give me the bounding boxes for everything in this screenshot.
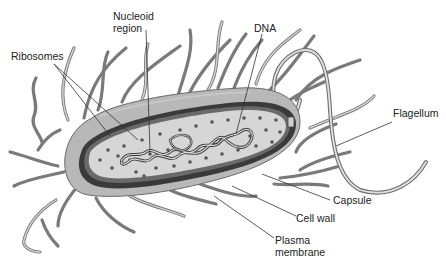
capsule-label: Capsule bbox=[333, 194, 372, 206]
ribosomes-label: Ribosomes bbox=[11, 50, 64, 62]
cell-wall-label: Cell wall bbox=[296, 212, 335, 224]
nucleoid-region-label: Nucleoid region bbox=[113, 10, 154, 34]
plasma-membrane-label: Plasma membrane bbox=[275, 234, 325, 258]
dna-label: DNA bbox=[254, 22, 276, 34]
bacterial-cell-diagram bbox=[0, 0, 446, 268]
flagellum-label: Flagellum bbox=[393, 107, 439, 119]
